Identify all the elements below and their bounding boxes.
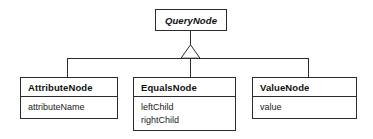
class-name-querynode: QueryNode: [165, 15, 217, 26]
class-box-querynode[interactable]: QueryNode: [155, 9, 227, 31]
attribute-item: leftChild: [141, 101, 228, 114]
class-name-attributenode: AttributeNode: [28, 82, 93, 93]
name-compartment-equalsnode: EqualsNode: [134, 78, 235, 97]
name-compartment-querynode: QueryNode: [156, 10, 226, 30]
name-compartment-valuenode: ValueNode: [253, 78, 356, 97]
generalization-triangle-icon: [180, 44, 201, 59]
attribute-compartment-equalsnode: leftChild rightChild: [134, 97, 235, 130]
generalization-stem-vertical: [190, 31, 191, 45]
generalization-drop-valuenode: [308, 58, 309, 77]
attribute-item: attributeName: [28, 101, 110, 114]
class-name-equalsnode: EqualsNode: [141, 82, 197, 93]
class-box-equalsnode[interactable]: EqualsNode leftChild rightChild: [133, 77, 236, 131]
attribute-item: rightChild: [141, 114, 228, 127]
class-name-valuenode: ValueNode: [260, 82, 309, 93]
generalization-bus-horizontal: [67, 58, 309, 59]
generalization-drop-attributenode: [67, 58, 68, 77]
class-box-valuenode[interactable]: ValueNode value: [252, 77, 357, 119]
attribute-compartment-attributenode: attributeName: [21, 97, 117, 117]
class-box-attributenode[interactable]: AttributeNode attributeName: [20, 77, 118, 119]
attribute-item: value: [260, 101, 349, 114]
uml-class-diagram: QueryNode AttributeNode attributeName Eq…: [0, 0, 373, 139]
generalization-drop-equalsnode: [190, 58, 191, 77]
name-compartment-attributenode: AttributeNode: [21, 78, 117, 97]
attribute-compartment-valuenode: value: [253, 97, 356, 117]
